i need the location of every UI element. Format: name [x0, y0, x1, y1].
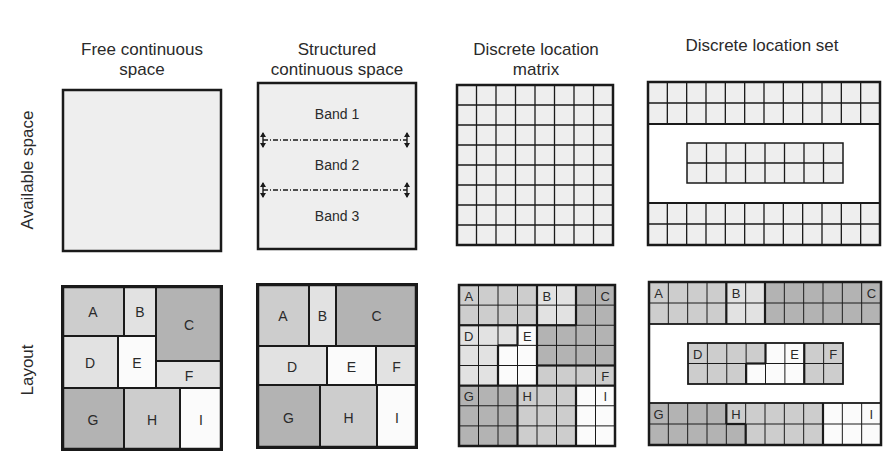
cell-E: [766, 364, 785, 385]
cell-C: [784, 282, 803, 303]
cell-B: [537, 305, 557, 325]
block-label-G: G: [464, 389, 474, 404]
layout-free-continuous-panel: ABCDEFGHI: [62, 286, 222, 450]
cell-D: [459, 366, 479, 386]
cell-C: [765, 303, 784, 324]
block-label-A: A: [88, 304, 98, 320]
cell-G: [459, 406, 479, 426]
block-label-I: I: [603, 389, 607, 404]
cell-H: [804, 424, 823, 445]
band-label: Band 3: [315, 208, 360, 224]
cell-E: [498, 345, 518, 365]
cell-A: [518, 285, 538, 305]
column-title-discrete-matrix: Discrete location matrix: [436, 40, 636, 80]
column-title-discrete-set: Discrete location set: [652, 36, 872, 56]
cell-I: [576, 386, 596, 406]
cell-A: [459, 305, 479, 325]
cell-H: [746, 403, 765, 424]
block-label-F: F: [392, 359, 401, 375]
cell-I: [576, 426, 596, 446]
cell-H: [557, 426, 577, 446]
cell-F: [804, 343, 823, 364]
cell-C: [576, 285, 596, 305]
block-label-C: C: [601, 289, 610, 304]
cell-C: [842, 282, 861, 303]
cell-H: [784, 403, 803, 424]
block-label-A: A: [278, 308, 288, 324]
block-label-F: F: [185, 368, 194, 384]
cell-D: [746, 343, 765, 364]
block-label-I: I: [395, 410, 399, 426]
block-label-B: B: [318, 308, 327, 324]
cell-G: [668, 403, 687, 424]
cell-G: [668, 424, 687, 445]
block-label-F: F: [601, 369, 609, 384]
cell-G: [707, 424, 726, 445]
cell-H: [537, 386, 557, 406]
block-label-E: E: [790, 347, 799, 362]
cell-F: [576, 366, 596, 386]
cell-E: [746, 364, 765, 385]
block-label-G: G: [283, 410, 294, 426]
column-title-free-continuous: Free continuous space: [62, 40, 222, 80]
block-label-H: H: [343, 410, 353, 426]
cell-E: [766, 343, 785, 364]
cell-G: [707, 403, 726, 424]
cell-E: [518, 366, 538, 386]
cell-C: [765, 282, 784, 303]
cell-H: [518, 406, 538, 426]
cell-E: [785, 364, 804, 385]
cell-C: [576, 325, 596, 345]
cell-E: [518, 345, 538, 365]
cell-H: [804, 403, 823, 424]
cell-A: [688, 282, 707, 303]
block-label-H: H: [731, 407, 740, 422]
cell-G: [726, 424, 745, 445]
block-label-I: I: [870, 407, 874, 422]
cell-C: [596, 325, 616, 345]
cell-D: [459, 345, 479, 365]
cell-C: [784, 303, 803, 324]
layout-discrete-matrix-panel: ABCDEFGHI: [458, 284, 616, 447]
cell-B: [557, 305, 577, 325]
block-label-I: I: [199, 412, 203, 428]
cell-E: [498, 366, 518, 386]
cell-A: [649, 303, 668, 324]
cell-H: [784, 424, 803, 445]
cell-I: [576, 406, 596, 426]
cell-C: [804, 282, 823, 303]
block-label-G: G: [654, 407, 664, 422]
cell-A: [707, 282, 726, 303]
cell-C: [537, 345, 557, 365]
cell-C: [596, 305, 616, 325]
cell-H: [518, 426, 538, 446]
block-label-D: D: [287, 359, 297, 375]
block-label-A: A: [654, 286, 663, 301]
cell-F: [804, 364, 823, 385]
cell-A: [498, 305, 518, 325]
block-label-B: B: [732, 286, 741, 301]
cell-I: [842, 403, 861, 424]
block-label-D: D: [464, 329, 473, 344]
block-label-A: A: [464, 289, 473, 304]
cell-H: [557, 386, 577, 406]
cell-G: [649, 424, 668, 445]
cell-C: [804, 303, 823, 324]
cell-A: [668, 282, 687, 303]
cell-B: [746, 303, 765, 324]
cell-G: [459, 426, 479, 446]
cell-B: [557, 285, 577, 305]
band-label: Band 2: [315, 157, 360, 173]
cell-C: [576, 345, 596, 365]
cell-C: [576, 305, 596, 325]
cell-I: [596, 406, 616, 426]
cell-C: [537, 325, 557, 345]
cell-D: [727, 343, 746, 364]
cell-A: [479, 305, 499, 325]
cell-C: [823, 282, 842, 303]
cell-D: [479, 366, 499, 386]
cell-G: [479, 386, 499, 406]
cell-A: [518, 305, 538, 325]
cell-B: [746, 282, 765, 303]
cell-H: [765, 424, 784, 445]
